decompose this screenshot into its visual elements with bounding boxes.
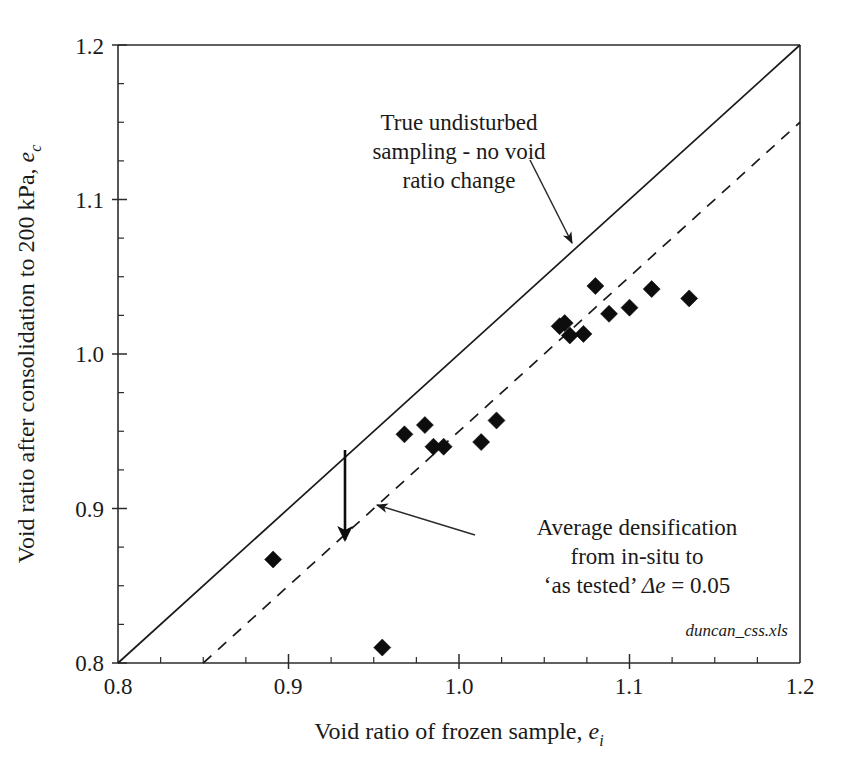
y-axis-title-symbol: e [13, 151, 39, 162]
annotation-line-post: = 0.05 [665, 573, 730, 598]
data-point-marker [488, 412, 505, 429]
reference-lines [118, 45, 800, 663]
annotation-average-densification: Average densification from in-situ to ‘a… [537, 515, 738, 598]
x-tick-label: 1.2 [786, 674, 815, 699]
data-point-marker [621, 299, 638, 316]
scatter-chart-svg: 0.8 0.9 1.0 1.1 1.2 0.8 0.9 1.0 1.1 1.2 … [0, 0, 842, 767]
y-tick-label: 1.0 [75, 342, 104, 367]
y-tick-label: 1.1 [75, 188, 104, 213]
annotation-line: True undisturbed [381, 110, 538, 135]
data-point-marker [681, 290, 698, 307]
data-point-marker [601, 305, 618, 322]
data-point-marker [374, 639, 391, 656]
leader-average-densification [377, 505, 475, 535]
y-axis-title: Void ratio after consolidation to 200 kP… [13, 145, 44, 564]
annotation-delta-symbol: Δe [641, 573, 666, 598]
x-axis-title: Void ratio of frozen sample, ei [314, 718, 603, 749]
annotation-line: from in-situ to [571, 544, 704, 569]
annotation-leaders [345, 160, 572, 540]
annotation-line: ratio change [402, 168, 515, 193]
x-tick-label: 1.1 [615, 674, 644, 699]
annotation-line-pre: ‘as tested’ [544, 573, 642, 598]
data-point-marker [587, 278, 604, 295]
watermark-label: duncan_css.xls [686, 621, 789, 640]
leader-true-undisturbed [530, 160, 572, 243]
data-point-marker [575, 325, 592, 342]
annotation-line: ‘as tested’ Δe = 0.05 [544, 573, 730, 598]
annotation-true-undisturbed: True undisturbed sampling - no void rati… [372, 110, 546, 193]
x-tick-label: 0.8 [104, 674, 133, 699]
annotation-line: Average densification [537, 515, 738, 540]
one-to-one-line [118, 45, 800, 663]
data-point-marker [435, 438, 452, 455]
y-tick-label: 0.9 [75, 497, 104, 522]
x-axis-title-subscript: i [599, 732, 603, 749]
annotation-line: sampling - no void [372, 139, 546, 164]
x-tick-label: 1.0 [445, 674, 474, 699]
y-tick-labels: 0.8 0.9 1.0 1.1 1.2 [75, 34, 104, 676]
data-point-marker [396, 426, 413, 443]
x-tick-labels: 0.8 0.9 1.0 1.1 1.2 [104, 674, 815, 699]
x-axis-title-text: Void ratio of frozen sample, [314, 718, 588, 744]
data-point-marker [473, 434, 490, 451]
x-axis-title-symbol: e [589, 718, 600, 744]
y-axis-title-subscript: c [27, 145, 44, 152]
y-tick-label: 0.8 [75, 651, 104, 676]
y-tick-label: 1.2 [75, 34, 104, 59]
y-axis-title-text: Void ratio after consolidation to 200 kP… [13, 162, 39, 563]
data-point-marker [643, 281, 660, 298]
x-tick-label: 0.9 [274, 674, 303, 699]
data-point-marker [265, 551, 282, 568]
chart-figure: 0.8 0.9 1.0 1.1 1.2 0.8 0.9 1.0 1.1 1.2 … [0, 0, 842, 767]
data-point-marker [416, 417, 433, 434]
